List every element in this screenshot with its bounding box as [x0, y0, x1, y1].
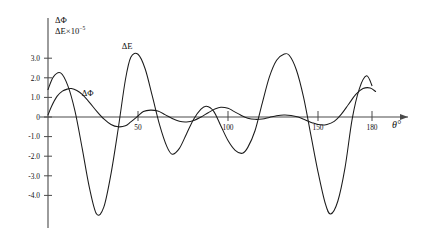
figure-container: 3.02.01.00-1.0-2.0-3.0-4.0 50100150180 Δ… — [0, 0, 425, 238]
y-tick-label: 1.0 — [31, 93, 41, 102]
x-axis-title: θ° — [392, 119, 401, 130]
x-tick-label: 180 — [366, 123, 377, 132]
curve-annotation: ΔΦ — [82, 88, 95, 98]
chart-canvas: 3.02.01.00-1.0-2.0-3.0-4.0 50100150180 Δ… — [0, 0, 425, 238]
x-axis-arrow — [400, 114, 408, 120]
curve-annotation: ΔE — [122, 41, 133, 51]
y-tick-label: -4.0 — [28, 191, 40, 200]
y-tick-label: 2.0 — [31, 74, 41, 83]
y-axis-title-factor: ×10 — [66, 26, 79, 36]
y-axis-title-line2: ΔE×10−5 — [55, 25, 85, 36]
y-axis-title-symbol: ΔE — [55, 26, 66, 36]
y-tick-label: -3.0 — [28, 172, 40, 181]
annotation-group: ΔEΔΦ — [82, 41, 133, 98]
x-tick-label: 100 — [222, 123, 233, 132]
y-axis-title-exponent: −5 — [79, 25, 85, 31]
y-tick-label: -1.0 — [28, 132, 40, 141]
y-tick-label: 0 — [36, 113, 40, 122]
y-axis-title-line1: ΔΦ — [55, 15, 68, 25]
curve-delta-e — [48, 53, 372, 215]
curve-delta-phi — [48, 88, 376, 127]
x-tick-label: 50 — [134, 123, 142, 132]
y-tick-label: 3.0 — [31, 54, 41, 63]
y-tick-label: -2.0 — [28, 152, 40, 161]
